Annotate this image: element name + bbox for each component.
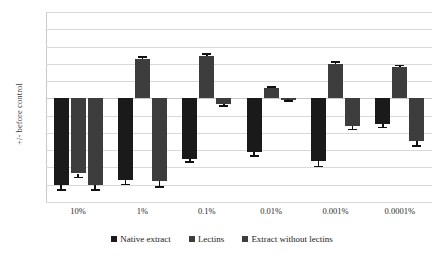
- bar-slot: [247, 12, 262, 202]
- bar: [118, 98, 133, 180]
- bar-slot: [135, 12, 150, 202]
- error-bar-cap: [74, 177, 83, 179]
- x-axis-tick-label: 0.0001%: [385, 206, 415, 216]
- legend-label: Lectins: [198, 234, 225, 244]
- error-bar-cap: [185, 161, 194, 163]
- bar: [392, 67, 407, 98]
- error-bar-cap: [348, 129, 357, 131]
- bar: [409, 98, 424, 140]
- error-bar-cap: [219, 105, 228, 107]
- error-bar-cap: [378, 127, 387, 129]
- bar-group: [175, 12, 239, 202]
- bar-slot: [118, 12, 133, 202]
- bar: [54, 98, 69, 184]
- legend-item: Extract without lectins: [242, 234, 332, 244]
- bar-slot: [409, 12, 424, 202]
- bar-group: [239, 12, 303, 202]
- bar: [375, 98, 390, 124]
- plot-area: [46, 12, 432, 202]
- bar-slot: [199, 12, 214, 202]
- bar: [135, 59, 150, 99]
- error-bar-cap: [202, 53, 211, 55]
- x-axis-tick-label: 0.1%: [198, 206, 216, 216]
- y-axis-title: +/- before control: [14, 54, 24, 174]
- error-bar-cap: [331, 61, 340, 63]
- bar: [152, 98, 167, 181]
- legend-swatch-icon: [242, 236, 248, 242]
- chart-legend: Native extractLectinsExtract without lec…: [0, 234, 444, 244]
- legend-swatch-icon: [111, 236, 117, 242]
- legend-swatch-icon: [189, 236, 195, 242]
- bar-slot: [375, 12, 390, 202]
- error-bar-cap: [314, 166, 323, 168]
- legend-item: Lectins: [189, 234, 225, 244]
- bar-slot: [264, 12, 279, 202]
- bar-slot: [152, 12, 167, 202]
- bar-slot: [71, 12, 86, 202]
- error-bar-cap: [155, 186, 164, 188]
- bar: [182, 98, 197, 158]
- bar: [199, 56, 214, 98]
- bar: [247, 98, 262, 152]
- error-bar-cap: [91, 189, 100, 191]
- bar-slot: [328, 12, 343, 202]
- bar: [311, 98, 326, 161]
- bar-group: [46, 12, 110, 202]
- bar: [328, 64, 343, 99]
- bar-group: [110, 12, 174, 202]
- bar-slot: [392, 12, 407, 202]
- gridline: [46, 202, 432, 203]
- bar-slot: [54, 12, 69, 202]
- bar-slot: [216, 12, 231, 202]
- bar-group: [368, 12, 432, 202]
- bar-group: [303, 12, 367, 202]
- x-axis-tick-label: 0.001%: [322, 206, 348, 216]
- bar: [71, 98, 86, 173]
- x-axis-tick-label: 0.01%: [260, 206, 282, 216]
- bar: [264, 88, 279, 98]
- x-axis-tick-label: 1%: [137, 206, 148, 216]
- error-bar-cap: [395, 65, 404, 67]
- legend-item: Native extract: [111, 234, 171, 244]
- error-bar-cap: [138, 56, 147, 58]
- legend-label: Extract without lectins: [251, 234, 332, 244]
- error-bar-cap: [121, 184, 130, 186]
- bar-slot: [88, 12, 103, 202]
- bar-slot: [182, 12, 197, 202]
- error-bar-cap: [57, 189, 66, 191]
- x-axis-tick-label: 10%: [70, 206, 86, 216]
- bar-slot: [281, 12, 296, 202]
- bar-chart: +/- before control Native extractLectins…: [0, 0, 444, 258]
- error-bar-cap: [250, 155, 259, 157]
- legend-label: Native extract: [120, 234, 171, 244]
- bar-slot: [345, 12, 360, 202]
- error-bar-cap: [412, 145, 421, 147]
- bar: [345, 98, 360, 126]
- bar: [88, 98, 103, 184]
- bar-slot: [311, 12, 326, 202]
